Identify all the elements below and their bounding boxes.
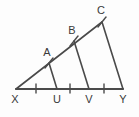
geometry-diagram: X U V Y A B C bbox=[0, 0, 139, 117]
label-point-u: U bbox=[53, 93, 61, 105]
segment-hypotenuse-xc bbox=[16, 22, 102, 89]
segment-transversal-bv bbox=[74, 41, 89, 89]
label-point-x: X bbox=[11, 93, 19, 105]
tick-hypotenuse-at-a bbox=[45, 58, 53, 68]
segment-side-cy bbox=[102, 22, 123, 89]
label-point-v: V bbox=[85, 93, 93, 105]
label-point-a: A bbox=[43, 46, 51, 58]
geometry-figure: X U V Y A B C bbox=[0, 0, 139, 117]
label-point-y: Y bbox=[119, 93, 127, 105]
segment-transversal-au bbox=[49, 63, 57, 89]
label-point-c: C bbox=[97, 4, 105, 16]
label-point-b: B bbox=[68, 24, 75, 36]
tick-hypotenuse-at-c bbox=[98, 17, 106, 27]
